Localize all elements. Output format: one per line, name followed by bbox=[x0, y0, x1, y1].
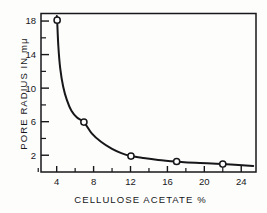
svg-text:20: 20 bbox=[199, 176, 210, 187]
data-point-markers bbox=[54, 17, 226, 167]
svg-text:12: 12 bbox=[125, 176, 136, 187]
data-point-marker bbox=[54, 17, 60, 23]
x-axis-ticks bbox=[38, 166, 241, 172]
figure-container: 4812162024 26101418 PORE RADIUS IN mμ CE… bbox=[0, 0, 267, 213]
data-curve bbox=[57, 16, 253, 166]
x-axis-tick-labels: 4812162024 bbox=[54, 176, 246, 187]
data-point-marker bbox=[128, 153, 134, 159]
pore-radius-vs-cellulose-acetate-chart: 4812162024 26101418 bbox=[0, 0, 267, 213]
y-axis-ticks bbox=[41, 21, 49, 155]
data-point-marker bbox=[81, 119, 87, 125]
svg-text:8: 8 bbox=[91, 176, 96, 187]
x-axis-title: CELLULOSE ACETATE % bbox=[0, 194, 267, 205]
data-point-marker bbox=[220, 161, 226, 167]
svg-text:16: 16 bbox=[162, 176, 173, 187]
svg-text:4: 4 bbox=[54, 176, 59, 187]
svg-text:6: 6 bbox=[31, 116, 36, 127]
svg-text:2: 2 bbox=[31, 150, 36, 161]
svg-text:24: 24 bbox=[236, 176, 247, 187]
data-point-marker bbox=[174, 158, 180, 164]
y-axis-title: PORE RADIUS IN mμ bbox=[18, 9, 29, 179]
plot-frame bbox=[41, 14, 256, 173]
